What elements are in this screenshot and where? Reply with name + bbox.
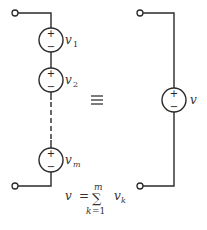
terminal-top-left xyxy=(12,10,18,16)
formula-term-subscript: k xyxy=(121,196,126,205)
terminal-bottom-left xyxy=(12,183,18,189)
minus-sign: − xyxy=(47,41,55,52)
terminal-bottom-right xyxy=(137,183,143,189)
top-wire-left xyxy=(18,13,51,28)
voltage-source-1: + − v 1 xyxy=(39,28,78,52)
left-series-circuit: + − v 1 + − v 2 + − v m xyxy=(12,10,81,189)
sum-symbol-icon: ∑ xyxy=(92,191,102,206)
equivalent-voltage-source: + − v xyxy=(162,88,197,112)
top-wire-right xyxy=(143,13,174,88)
plus-sign: + xyxy=(47,148,55,159)
source-label: v xyxy=(65,33,72,47)
equivalence-sign-icon xyxy=(91,96,103,104)
minus-sign: − xyxy=(170,101,178,112)
formula-lhs: v xyxy=(65,189,72,203)
circuit-diagram: + − v 1 + − v 2 + − v m xyxy=(0,0,207,230)
sum-lower-index: k xyxy=(86,206,91,216)
terminal-top-right xyxy=(137,10,143,16)
formula-term: v xyxy=(114,189,121,203)
source-subscript: 1 xyxy=(73,40,78,49)
summation-formula: v = ∑ m k =1 v k xyxy=(65,182,126,216)
bottom-wire-left xyxy=(18,172,51,186)
sum-upper-limit: m xyxy=(94,182,103,192)
plus-sign: + xyxy=(47,28,55,39)
sum-lower-start: =1 xyxy=(92,206,105,216)
plus-sign: + xyxy=(47,68,55,79)
minus-sign: − xyxy=(47,161,55,172)
source-subscript: 2 xyxy=(73,80,78,89)
plus-sign: + xyxy=(170,88,178,99)
bottom-wire-right xyxy=(143,112,174,186)
voltage-source-2: + − v 2 xyxy=(39,68,78,92)
source-label: v xyxy=(65,73,72,87)
source-subscript: m xyxy=(73,160,81,169)
source-label: v xyxy=(190,93,197,107)
voltage-source-m: + − v m xyxy=(39,148,81,172)
formula-equals: = xyxy=(79,189,89,203)
right-equivalent-circuit: + − v xyxy=(137,10,197,189)
source-label: v xyxy=(65,153,72,167)
minus-sign: − xyxy=(47,81,55,92)
